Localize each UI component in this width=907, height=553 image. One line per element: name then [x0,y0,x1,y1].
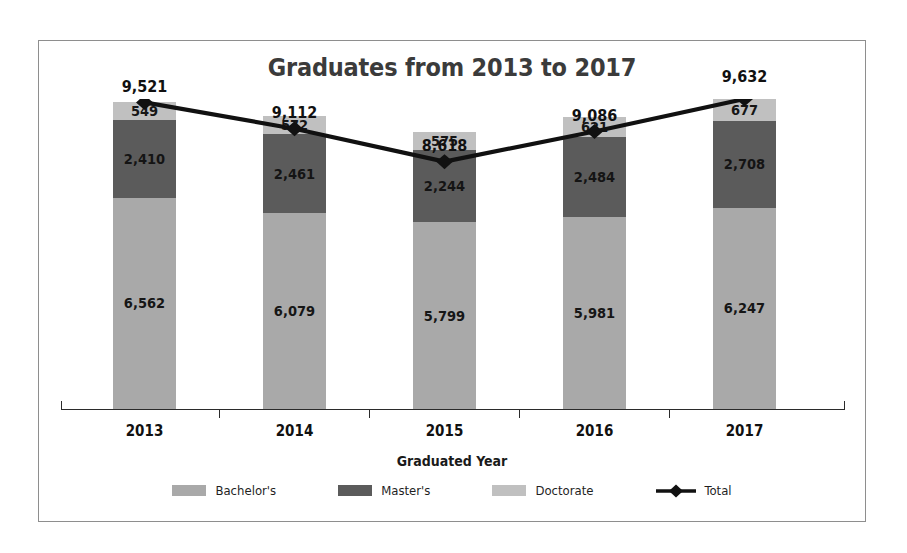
x-axis-tick [519,409,520,418]
bar-segment-label: 677 [731,102,758,118]
x-axis-label-2014: 2014 [276,422,314,440]
bar-segment-bachelors[interactable]: 5,799 [413,222,476,409]
total-value-label: 9,632 [722,67,768,86]
bar-segment-label: 5,981 [574,305,615,321]
bar-segment-masters[interactable]: 2,244 [413,150,476,222]
bar-segment-label: 6,562 [124,295,165,311]
bar-segment-doctorate[interactable]: 549 [113,102,176,120]
legend-label: Master's [381,483,430,498]
x-axis-label-2015: 2015 [426,422,464,440]
bar-segment-label: 549 [131,103,158,119]
bar-segment-bachelors[interactable]: 6,079 [263,213,326,409]
legend-item-bachelors[interactable]: Bachelor's [172,483,276,498]
bar-segment-bachelors[interactable]: 5,981 [563,217,626,410]
legend-swatch-icon [338,485,372,496]
plot-area: 549 2,410 6,562 572 2,461 6,079 575 [39,99,867,409]
x-axis-title: Graduated Year [39,453,865,469]
bar-segment-bachelors[interactable]: 6,562 [113,198,176,409]
legend-swatch-icon [172,485,206,496]
legend-item-doctorate[interactable]: Doctorate [492,483,593,498]
bar-segment-doctorate[interactable]: 677 [713,99,776,121]
bar-segment-label: 2,244 [424,178,465,194]
bar-segment-masters[interactable]: 2,410 [113,120,176,198]
x-axis-label-2013: 2013 [126,422,164,440]
legend: Bachelor's Master's Doctorate Total [39,483,865,498]
bar-segment-label: 2,708 [724,156,765,172]
x-axis-line [61,409,845,410]
x-axis-tick-end [844,401,845,410]
legend-item-total[interactable]: Total [656,483,732,498]
chart-frame: Graduates from 2013 to 2017 549 2,410 6,… [38,40,866,522]
total-value-label: 9,086 [572,106,618,125]
bar-segment-label: 2,410 [124,151,165,167]
x-axis-label-2017: 2017 [726,422,764,440]
bar-group[interactable]: 549 2,410 6,562 [113,102,176,409]
total-value-label: 9,112 [272,103,318,122]
diamond-line-icon [656,484,696,498]
bar-segment-label: 2,484 [574,169,615,185]
x-axis-tick-start [61,401,62,410]
x-axis-tick [219,409,220,418]
legend-item-masters[interactable]: Master's [338,483,430,498]
bar-segment-label: 5,799 [424,308,465,324]
bar-group[interactable]: 677 2,708 6,247 [713,99,776,409]
legend-label: Bachelor's [215,483,276,498]
bar-segment-label: 6,247 [724,300,765,316]
legend-label: Doctorate [535,483,593,498]
x-axis-label-2016: 2016 [576,422,614,440]
bar-segment-bachelors[interactable]: 6,247 [713,208,776,409]
bar-segment-label: 6,079 [274,303,315,319]
total-value-label: 8,618 [422,136,468,155]
legend-swatch-icon [492,485,526,496]
bar-segment-label: 2,461 [274,166,315,182]
bar-group[interactable]: 572 2,461 6,079 [263,116,326,409]
bar-group[interactable]: 621 2,484 5,981 [563,117,626,409]
x-axis-tick [669,409,670,418]
legend-label: Total [705,483,732,498]
bar-segment-masters[interactable]: 2,708 [713,121,776,208]
bar-group[interactable]: 575 2,244 5,799 [413,132,476,409]
bar-segment-masters[interactable]: 2,461 [263,134,326,213]
total-value-label: 9,521 [122,77,168,96]
x-axis-tick [369,409,370,418]
bar-segment-masters[interactable]: 2,484 [563,137,626,217]
